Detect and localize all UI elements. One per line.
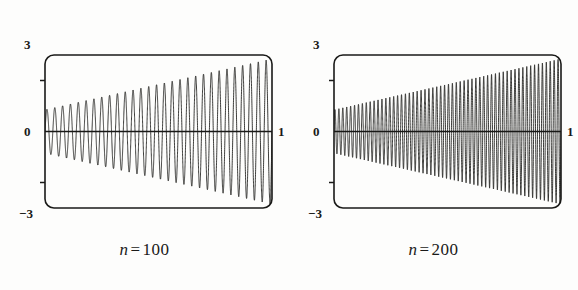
caption-value: 200 — [432, 240, 459, 259]
y-axis-min-label: −3 — [308, 207, 322, 220]
x-axis-max-label: 1 — [278, 125, 285, 138]
caption-equals: = — [128, 240, 142, 259]
caption-value: 100 — [143, 240, 170, 259]
y-axis-min-label: −3 — [19, 207, 33, 220]
panel-caption-n200: n=200 — [289, 240, 578, 260]
plot-panel-n200: 3 0 −3 1 n=200 — [289, 0, 578, 290]
y-axis-max-label: 3 — [24, 38, 31, 51]
y-axis-zero-label: 0 — [24, 125, 31, 138]
y-axis-zero-label: 0 — [313, 125, 320, 138]
panel-caption-n100: n=100 — [0, 240, 289, 260]
oscillation-figure: 3 0 −3 1 n=100 3 0 −3 1 n=200 — [0, 0, 578, 290]
x-axis-max-label: 1 — [567, 125, 574, 138]
plot-area-n100 — [0, 0, 289, 240]
plot-area-n200 — [289, 0, 578, 240]
plot-panel-n100: 3 0 −3 1 n=100 — [0, 0, 289, 290]
y-axis-max-label: 3 — [313, 38, 320, 51]
caption-equals: = — [417, 240, 431, 259]
